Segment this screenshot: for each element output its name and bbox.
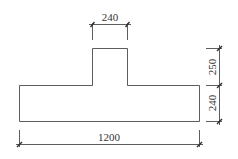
- stem-width-label: 240: [102, 11, 119, 23]
- top-dimension: [89, 22, 131, 40]
- t-section-diagram: 240 250 240 1200: [0, 0, 238, 159]
- right-dimension: [206, 45, 222, 125]
- t-section-outline: [20, 49, 200, 122]
- stem-height-label: 250: [206, 58, 218, 75]
- base-height-label: 240: [206, 94, 218, 111]
- base-width-label: 1200: [98, 131, 121, 143]
